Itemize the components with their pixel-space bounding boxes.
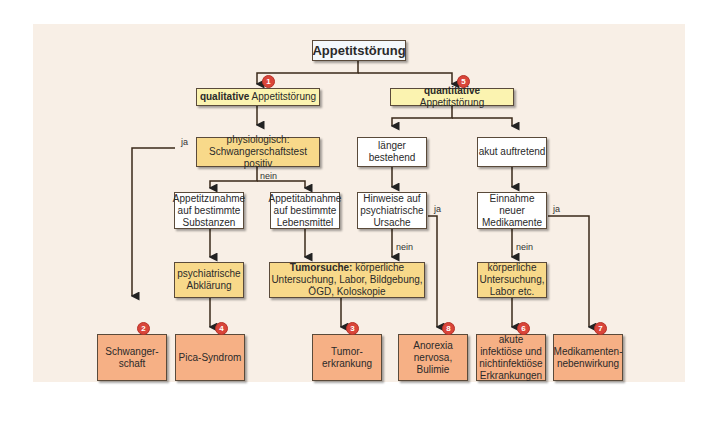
appetitabnahme-node: Appetitabnahme auf bestimmte Lebensmitte… — [270, 192, 340, 229]
hinweise-node: Hinweise auf psychiatrische Ursache — [357, 192, 427, 229]
marker-2: 2 — [137, 322, 150, 335]
marker-4: 4 — [215, 322, 228, 335]
ja-label: ja — [181, 137, 188, 147]
outcome-label: Tumor-erkrankung — [313, 346, 381, 370]
marker-7: 7 — [594, 322, 607, 335]
outcome-medikamente: Medikamenten-nebenwirkung — [553, 334, 623, 381]
appetitabnahme-label: Appetitabnahme auf bestimmte Lebensmitte… — [269, 193, 342, 229]
outcome-label: akute infektiöse und nichtinfektiöse Erk… — [477, 334, 545, 382]
appetitzunahme-node: Appetitzunahme auf bestimmte Substanzen — [174, 192, 244, 229]
outcome-label: Schwanger-schaft — [98, 346, 166, 370]
outcome-pica: Pica-Syndrom — [175, 334, 245, 381]
psych-abklaerung-label: psychiatrische Abklärung — [175, 268, 243, 292]
qualitative-node: qualitative Appetitstörung — [196, 88, 320, 106]
marker-8: 8 — [442, 322, 455, 335]
root-label: Appetitstörung — [312, 45, 405, 57]
nein-label: nein — [516, 242, 533, 252]
einnahme-label: Einnahme neuer Medikamente — [478, 193, 546, 229]
koerperlich-node: körperliche Untersuchung, Labor etc. — [477, 262, 547, 298]
qualitative-label: qualitative Appetitstörung — [200, 91, 316, 103]
laenger-label: länger bestehend — [358, 140, 426, 164]
tumorsuche-label: Tumorsuche: körperliche Untersuchung, La… — [270, 262, 424, 298]
marker-5: 5 — [457, 75, 470, 88]
psych-abklaerung-node: psychiatrische Abklärung — [174, 262, 244, 298]
physiologisch-node: physiologisch: Schwangerschaftstest posi… — [196, 137, 320, 167]
nein-label: nein — [396, 242, 413, 252]
physiologisch-label: physiologisch: Schwangerschaftstest posi… — [197, 134, 319, 170]
akut-node: akut auftretend — [477, 137, 547, 167]
marker-1: 1 — [262, 75, 275, 88]
nein-label: nein — [260, 171, 277, 181]
appetitzunahme-label: Appetitzunahme auf bestimmte Substanzen — [173, 193, 245, 229]
outcome-schwangerschaft: Schwanger-schaft — [97, 334, 167, 381]
outcome-label: Anorexia nervosa, Bulimie — [399, 340, 467, 376]
ja-label: ja — [553, 204, 560, 214]
quantitative-label: quantitative Appetitstörung — [391, 85, 513, 109]
marker-6: 6 — [517, 322, 530, 335]
outcome-anorexia: Anorexia nervosa, Bulimie — [398, 334, 468, 381]
koerperlich-label: körperliche Untersuchung, Labor etc. — [478, 262, 546, 298]
einnahme-node: Einnahme neuer Medikamente — [477, 192, 547, 229]
ja-label: ja — [434, 204, 441, 214]
outcome-tumor: Tumor-erkrankung — [312, 334, 382, 381]
marker-3: 3 — [346, 322, 359, 335]
outcome-label: Medikamenten-nebenwirkung — [554, 346, 623, 370]
laenger-node: länger bestehend — [357, 137, 427, 167]
outcome-akute: akute infektiöse und nichtinfektiöse Erk… — [476, 334, 546, 381]
root-node: Appetitstörung — [312, 40, 406, 61]
quantitative-node: quantitative Appetitstörung — [390, 88, 514, 106]
akut-label: akut auftretend — [479, 146, 546, 158]
outcome-label: Pica-Syndrom — [179, 352, 242, 364]
tumorsuche-node: Tumorsuche: körperliche Untersuchung, La… — [269, 262, 425, 298]
hinweise-label: Hinweise auf psychiatrische Ursache — [358, 193, 426, 229]
